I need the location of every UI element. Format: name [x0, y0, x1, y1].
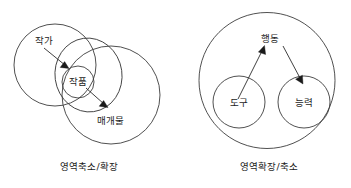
right-diagram-arrow-haengdong-to-neungryeok-line	[283, 46, 300, 78]
diagram-canvas: 작가 작품 매개물 영역축소/확장 행동 도구 능력	[0, 0, 351, 188]
right-diagram-label-haengdong: 행동	[261, 33, 279, 44]
left-diagram: 작가 작품 매개물 영역축소/확장	[14, 24, 160, 172]
left-diagram-label-jakga: 작가	[35, 35, 53, 46]
right-diagram-arrow-dogu-to-haengdong-line	[238, 51, 262, 99]
right-diagram: 행동 도구 능력 영역확장/축소	[199, 13, 335, 172]
right-diagram-label-neungryeok: 능력	[295, 97, 313, 108]
left-diagram-circle-maegaemul	[62, 46, 160, 144]
left-diagram-arrow-jakpum-to-maegaemul-line	[86, 88, 104, 104]
left-diagram-label-jakpum: 작품	[69, 76, 87, 87]
left-diagram-caption: 영역축소/확장	[60, 161, 119, 172]
left-diagram-label-maegaemul: 매개물	[97, 115, 124, 126]
left-diagram-arrow-jakpum-to-maegaemul-head	[99, 101, 108, 108]
right-diagram-arrow-dogu-to-haengdong-head	[258, 46, 265, 55]
right-diagram-label-dogu: 도구	[230, 97, 248, 108]
right-diagram-caption: 영역확장/축소	[240, 161, 299, 172]
left-diagram-circle-jakga	[14, 24, 96, 106]
figure-root: 작가 작품 매개물 영역축소/확장 행동 도구 능력	[0, 0, 351, 188]
